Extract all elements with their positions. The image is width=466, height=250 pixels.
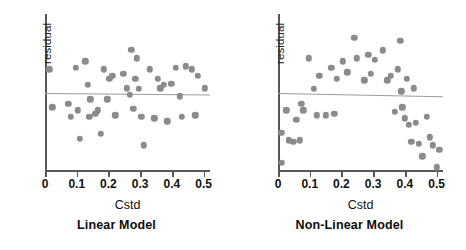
x-tick-label: 0.2 — [100, 177, 117, 191]
panel-caption-nonlinear: Non-Linear Model — [233, 218, 466, 232]
scatter-point — [154, 76, 160, 82]
y-axis-label: residual — [41, 23, 53, 64]
scatter-point — [138, 113, 144, 119]
scatter-point — [164, 118, 170, 124]
x-axis-tick — [45, 172, 47, 177]
scatter-point — [351, 34, 357, 40]
scatter-point — [195, 72, 201, 78]
x-axis-tick — [140, 172, 142, 177]
x-tick-label: 0 — [42, 177, 49, 191]
scatter-point — [426, 134, 432, 140]
x-axis-tick — [77, 172, 79, 177]
scatter-point — [192, 112, 198, 118]
scatter-point — [97, 131, 103, 137]
x-tick-label: 0.3 — [365, 177, 382, 191]
scatter-point — [136, 86, 142, 92]
scatter-point — [104, 96, 110, 102]
scatter-point — [361, 77, 367, 83]
scatter-point — [293, 117, 299, 123]
scatter-point — [316, 72, 322, 78]
x-tick-label: 0.5 — [428, 177, 445, 191]
scatter-point — [77, 136, 83, 142]
plot-area-nonlinear: residual 00.10.20.30.40.5 — [278, 14, 443, 172]
scatter-point — [340, 58, 346, 64]
scatter-point — [130, 106, 136, 112]
scatter-point — [395, 66, 401, 72]
scatter-point — [416, 140, 422, 146]
x-tick-label: 0.5 — [195, 177, 212, 191]
scatter-point — [365, 52, 371, 58]
scatter-point — [147, 66, 153, 72]
scatter-point — [353, 55, 359, 61]
scatter-point — [127, 91, 133, 97]
x-axis-line — [45, 170, 210, 172]
scatter-point — [109, 72, 115, 78]
scatter-point — [436, 147, 442, 153]
x-axis-tick — [310, 172, 312, 177]
scatter-point — [397, 38, 403, 44]
scatter-point — [387, 72, 393, 78]
scatter-point — [419, 153, 425, 159]
scatter-point — [413, 120, 419, 126]
residual-plots-figure: residual 00.10.20.30.40.5 Cstd Linear Mo… — [0, 0, 466, 250]
scatter-point — [430, 142, 436, 148]
scatter-point — [87, 96, 93, 102]
scatter-point — [283, 107, 289, 113]
scatter-point — [68, 113, 74, 119]
scatter-point — [279, 159, 285, 165]
scatter-point — [73, 65, 79, 71]
x-tick-label: 0.4 — [397, 177, 414, 191]
scatter-point — [367, 71, 373, 77]
scatter-point — [188, 66, 194, 72]
plot-area-linear: residual 00.10.20.30.40.5 — [45, 14, 210, 172]
scatter-point — [100, 66, 106, 72]
x-axis-tick — [278, 172, 280, 177]
scatter-point — [398, 88, 404, 94]
x-axis-line — [278, 170, 443, 172]
x-axis-title: Cstd — [45, 198, 210, 212]
scatter-point — [84, 82, 90, 88]
scatter-point — [296, 137, 302, 143]
x-tick-label: 0.3 — [132, 177, 149, 191]
scatter-point — [201, 85, 207, 91]
scatter-point — [306, 55, 312, 61]
scatter-point — [128, 46, 134, 52]
scatter-point — [176, 93, 182, 99]
scatter-point — [120, 71, 126, 77]
x-tick-label: 0 — [275, 177, 282, 191]
x-axis-tick — [172, 172, 174, 177]
scatter-point — [322, 112, 328, 118]
scatter-point — [344, 69, 350, 75]
scatter-point — [300, 107, 306, 113]
x-axis-tick — [341, 172, 343, 177]
x-tick-label: 0.2 — [333, 177, 350, 191]
scatter-point — [408, 139, 414, 145]
x-axis-tick — [204, 172, 206, 177]
panel-nonlinear-model: residual 00.10.20.30.40.5 Cstd Non-Linea… — [233, 0, 466, 250]
scatter-point — [49, 104, 55, 110]
scatter-point — [314, 112, 320, 118]
scatter-point — [334, 76, 340, 82]
scatter-point — [278, 129, 284, 135]
scatter-point — [151, 115, 157, 121]
x-tick-labels: 00.10.20.30.40.5 — [45, 177, 210, 193]
x-axis-title: Cstd — [278, 198, 443, 212]
scatter-point — [168, 80, 174, 86]
x-tick-label: 0.1 — [68, 177, 85, 191]
scatter-point — [423, 113, 429, 119]
x-axis-tick — [437, 172, 439, 177]
x-axis-tick — [108, 172, 110, 177]
scatter-point — [411, 85, 417, 91]
scatter-point — [133, 55, 139, 61]
scatter-point — [46, 66, 52, 72]
panel-caption-linear: Linear Model — [0, 218, 233, 232]
panel-linear-model: residual 00.10.20.30.40.5 Cstd Linear Mo… — [0, 0, 233, 250]
scatter-point — [65, 101, 71, 107]
scatter-point — [112, 112, 118, 118]
x-tick-label: 0.4 — [164, 177, 181, 191]
scatter-point — [331, 110, 337, 116]
y-axis-label: residual — [274, 23, 286, 64]
scatter-point — [75, 107, 81, 113]
reference-line — [278, 93, 443, 97]
scatter-point — [179, 113, 185, 119]
